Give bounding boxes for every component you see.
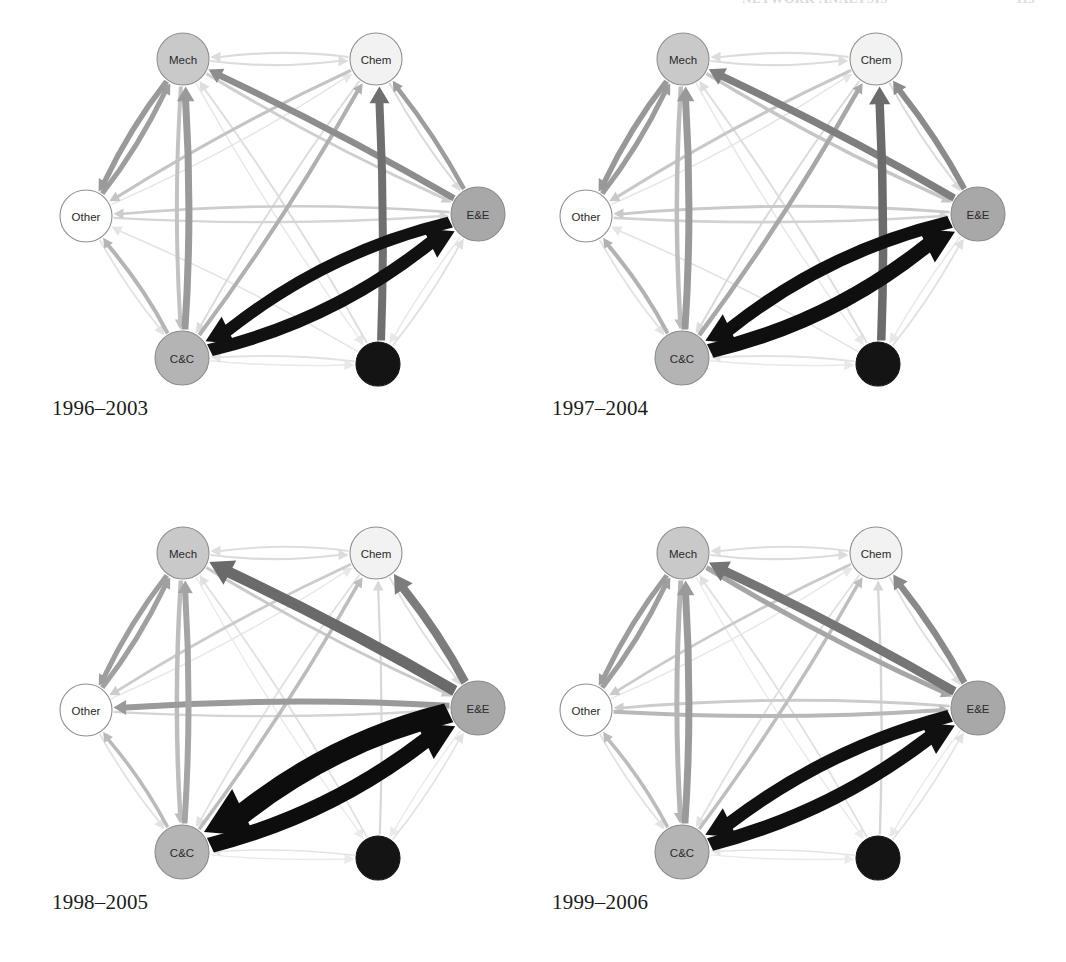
node-C-C[interactable]: C&C: [655, 825, 709, 879]
node-Chem[interactable]: Chem: [850, 527, 902, 579]
node-B-M[interactable]: B&M: [856, 836, 900, 880]
node-C-C[interactable]: C&C: [155, 825, 209, 879]
node-E-E[interactable]: E&E: [451, 187, 505, 241]
node-C-C[interactable]: C&C: [655, 331, 709, 385]
node-circle: [655, 825, 709, 879]
node-circle: [350, 33, 402, 85]
edge-layer: [599, 546, 967, 864]
edge-Other-to-C-C: [599, 239, 664, 335]
edge-Chem-to-E-E: [889, 83, 961, 192]
node-circle: [657, 527, 709, 579]
node-Other[interactable]: Other: [560, 684, 612, 736]
node-Chem[interactable]: Chem: [350, 33, 402, 85]
network-panel-3: MechChemOtherE&EC&CB&M1999–2006: [538, 508, 1038, 948]
edge-C-C-to-E-E: [207, 228, 455, 356]
network-graph: MechChemOtherE&EC&CB&M: [38, 14, 538, 404]
node-circle: [560, 190, 612, 242]
node-circle: [157, 33, 209, 85]
edge-E-E-to-C-C: [206, 217, 453, 344]
edge-B-M-to-Chem: [369, 86, 389, 340]
edge-Chem-to-Mech: [711, 52, 849, 62]
edge-B-M-to-Chem: [873, 580, 883, 834]
node-circle: [856, 836, 900, 880]
node-circle: [951, 187, 1005, 241]
node-Other[interactable]: Other: [60, 190, 112, 242]
network-panel-2: MechChemOtherE&EC&CB&M1998–2005: [38, 508, 538, 948]
node-circle: [856, 342, 900, 386]
network-panel-1: MechChemOtherE&EC&CB&M1997–2004: [538, 14, 1038, 454]
node-C-C[interactable]: C&C: [155, 331, 209, 385]
node-circle: [451, 187, 505, 241]
node-Mech[interactable]: Mech: [157, 33, 209, 85]
panel-caption: 1998–2005: [52, 890, 148, 915]
edge-E-E-to-Chem: [893, 81, 967, 191]
edge-C-C-to-B-M: [210, 854, 354, 864]
edge-C-C-to-B-M: [710, 854, 854, 864]
node-circle: [157, 527, 209, 579]
node-Chem[interactable]: Chem: [350, 527, 402, 579]
node-circle: [657, 33, 709, 85]
edge-Other-to-C-C: [99, 239, 164, 335]
node-B-M[interactable]: B&M: [356, 342, 400, 386]
edge-Mech-to-Other: [99, 80, 169, 192]
node-E-E[interactable]: E&E: [951, 681, 1005, 735]
node-B-M[interactable]: B&M: [356, 836, 400, 880]
node-B-M[interactable]: B&M: [856, 342, 900, 386]
edge-Chem-to-E-E: [889, 577, 961, 686]
node-E-E[interactable]: E&E: [451, 681, 505, 735]
edge-C-C-to-Other: [603, 732, 669, 829]
edge-E-E-to-Chem: [393, 81, 466, 190]
edge-C-C-to-Other: [103, 238, 169, 335]
node-circle: [560, 684, 612, 736]
node-Mech[interactable]: Mech: [657, 527, 709, 579]
edge-E-E-to-C-C: [705, 216, 953, 344]
node-Other[interactable]: Other: [60, 684, 112, 736]
network-graph: MechChemOtherE&EC&CB&M: [538, 508, 1038, 898]
edge-Mech-to-E-E: [705, 565, 952, 697]
edge-B-M-to-C-C: [211, 352, 355, 362]
node-circle: [451, 681, 505, 735]
network-canvas: MechChemOtherE&EC&CB&M: [538, 508, 1038, 898]
node-circle: [155, 331, 209, 385]
node-Other[interactable]: Other: [560, 190, 612, 242]
edge-Other-to-C-C: [599, 733, 664, 829]
edge-B-M-to-Chem: [373, 580, 383, 834]
panel-caption: 1996–2003: [52, 396, 148, 421]
panel-caption: 1999–2006: [552, 890, 648, 915]
node-Mech[interactable]: Mech: [657, 33, 709, 85]
edge-B-M-to-Other: [111, 227, 358, 353]
panel-caption: 1997–2004: [552, 396, 648, 421]
network-panel-0: MechChemOtherE&EC&CB&M1996–2003: [38, 14, 538, 454]
edge-Mech-to-Other: [99, 574, 169, 686]
edge-Mech-to-Other: [599, 574, 669, 686]
edge-Chem-to-Mech: [711, 546, 849, 556]
edge-E-E-to-C-C: [705, 710, 953, 838]
edge-Other-to-Mech: [100, 83, 170, 195]
edge-B-M-to-C-C: [211, 846, 355, 856]
edge-B-M-to-C-C: [711, 846, 855, 856]
edge-C-C-to-B-M: [710, 360, 854, 370]
edge-C-C-to-E-E: [707, 723, 955, 851]
node-Mech[interactable]: Mech: [157, 527, 209, 579]
edge-C-C-to-Other: [103, 732, 169, 829]
node-circle: [850, 33, 902, 85]
node-circle: [350, 527, 402, 579]
edge-layer: [99, 546, 469, 864]
node-circle: [951, 681, 1005, 735]
edge-Chem-to-Mech: [211, 52, 349, 62]
edge-Chem-to-Mech: [211, 546, 349, 556]
edge-Mech-to-Chem: [711, 550, 849, 560]
network-graph: MechChemOtherE&EC&CB&M: [538, 14, 1038, 404]
edge-Other-to-Mech: [600, 83, 670, 195]
node-Chem[interactable]: Chem: [850, 33, 902, 85]
edge-Other-to-Mech: [600, 577, 670, 689]
node-E-E[interactable]: E&E: [951, 187, 1005, 241]
network-canvas: MechChemOtherE&EC&CB&M: [538, 14, 1038, 404]
edge-E-E-to-Mech: [709, 68, 956, 201]
edge-Mech-to-Chem: [711, 56, 849, 66]
node-circle: [60, 684, 112, 736]
edge-Mech-to-Chem: [211, 550, 349, 560]
network-canvas: MechChemOtherE&EC&CB&M: [38, 508, 538, 898]
edge-B-M-to-E-E: [392, 239, 464, 346]
node-circle: [850, 527, 902, 579]
